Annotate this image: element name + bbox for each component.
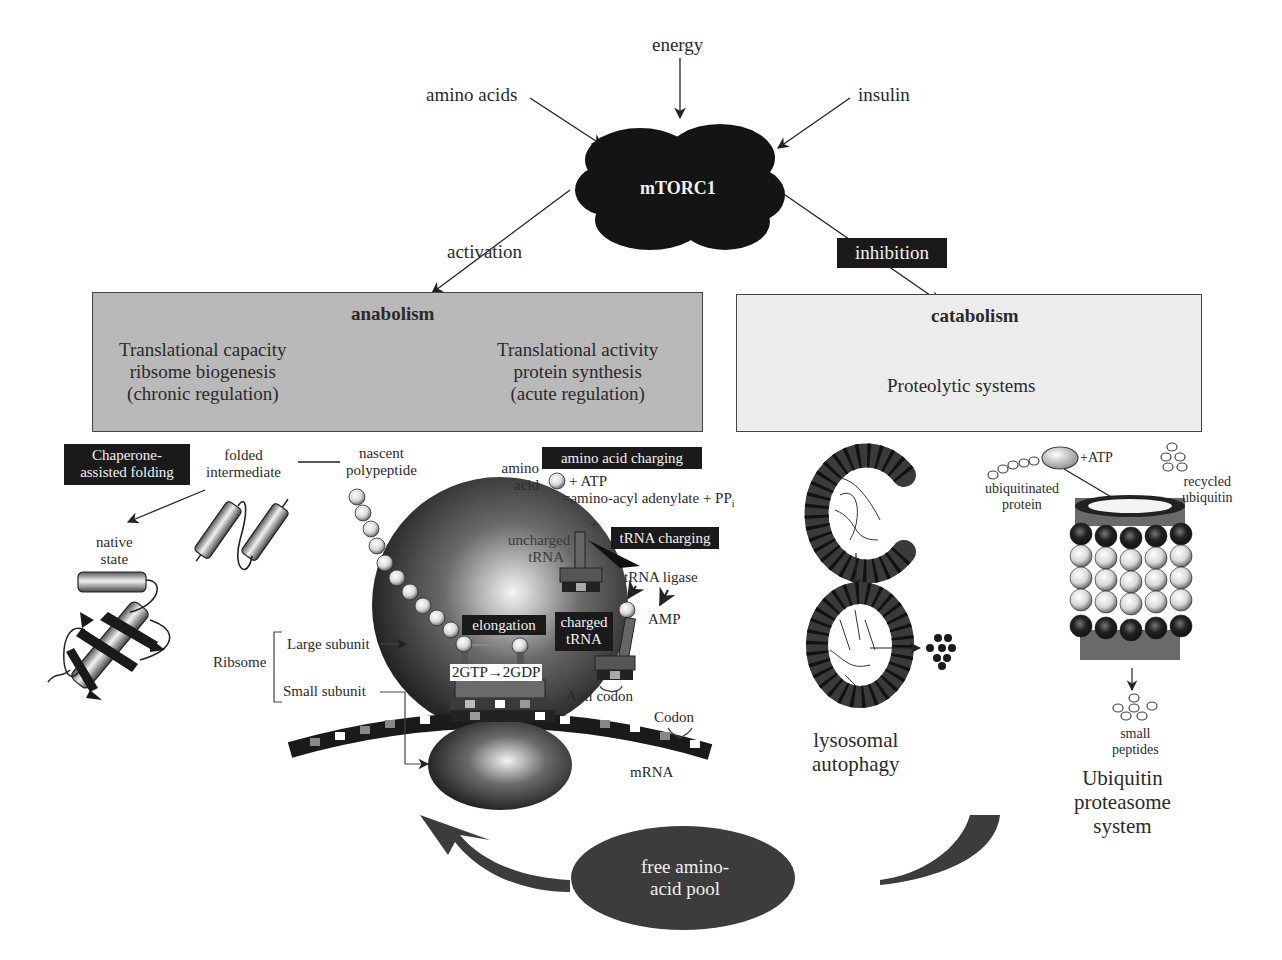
amino-line-2: acid: [496, 477, 539, 494]
anabolism-right-line-1: Translational activity: [497, 339, 658, 361]
adenylate-sub: i: [732, 498, 735, 509]
charged-trna-label: charged tRNA: [555, 612, 613, 651]
recycled-ubiquitin-label: recycled ubiquitin: [1182, 474, 1233, 506]
uncharged-line-2: tRNA: [508, 549, 570, 566]
ribosome-small-subunit: [428, 720, 572, 810]
folded-line-1: folded: [206, 447, 281, 464]
native-state-label: native state: [96, 534, 133, 569]
small-peptides-graphic: [1113, 694, 1157, 720]
native-line-1: native: [96, 534, 133, 551]
native-state-graphic: [48, 572, 170, 700]
recycled-line-2: ubiquitin: [1182, 490, 1233, 506]
plus-sign: +: [590, 516, 598, 533]
inhibition-label: inhibition: [837, 238, 947, 268]
ups-line-3: system: [1074, 814, 1171, 838]
large-subunit-label: Large subunit: [287, 636, 370, 653]
input-energy: energy: [652, 34, 703, 56]
anabolism-left-text: Translational capacity ribsome biogenesi…: [119, 339, 287, 405]
autophagy-line-2: autophagy: [812, 752, 899, 776]
chaperone-label: Chaperone- assisted folding: [64, 444, 190, 485]
proteasome-plus-atp: +ATP: [1080, 450, 1113, 466]
nascent-line-1: nascent: [346, 445, 417, 462]
autophagosome-graphic: [817, 456, 904, 572]
pool-line-1: free amino-: [641, 856, 729, 878]
amino-acid-bead: [549, 473, 565, 489]
charged-line-2: tRNA: [555, 631, 613, 648]
ups-line-2: proteasome: [1074, 790, 1171, 814]
gtp-label: 2GTP→2GDP: [450, 664, 542, 681]
mtorc1-label: mTORC1: [640, 178, 716, 199]
small-peptides-label: small peptides: [1112, 726, 1159, 758]
autophagy-line-1: lysosomal: [812, 728, 899, 752]
amino-acid-charging-label: amino acid charging: [542, 447, 702, 469]
folded-intermediate-label: folded intermediate: [206, 447, 281, 482]
folded-line-2: intermediate: [206, 464, 281, 481]
chaperone-line-2: assisted folding: [64, 464, 190, 481]
codon-label: Codon: [654, 709, 694, 726]
anabolism-left-line-1: Translational capacity: [119, 339, 287, 361]
anabolism-right-line-2: protein synthesis: [497, 361, 658, 383]
ubiquitinated-protein-label: ubiquitinated protein: [985, 481, 1059, 513]
nascent-line-2: polypeptide: [346, 462, 417, 479]
folded-intermediate-graphic: [189, 494, 295, 569]
ubiq-line-2: protein: [985, 497, 1059, 513]
amino-line-1: amino: [496, 460, 539, 477]
recycling-arrow: [880, 815, 1000, 885]
plus-atp-label: + ATP: [569, 473, 607, 490]
input-amino-acids: amino acids: [426, 84, 517, 106]
ups-label: Ubiquitin proteasome system: [1074, 766, 1171, 838]
adenylate-text: =amino-acyl adenylate + PP: [562, 490, 732, 506]
chaperone-line-1: Chaperone-: [64, 447, 190, 464]
anabolism-title: anabolism: [351, 303, 434, 325]
recycled-line-1: recycled: [1182, 474, 1233, 490]
small-subunit-label: Small subunit: [283, 683, 366, 700]
catabolism-title: catabolism: [931, 305, 1019, 327]
recycled-ubiquitin-graphic: [1161, 443, 1187, 471]
anabolism-right-line-3: (acute regulation): [497, 383, 658, 405]
adenylate-label: =amino-acyl adenylate + PPi: [562, 490, 735, 510]
mrna-label: mRNA: [630, 764, 673, 781]
anabolism-box: anabolism Translational capacity ribsome…: [92, 292, 703, 432]
ubiquitinated-protein-graphic: [988, 447, 1078, 479]
lysosome-graphic: [817, 593, 956, 697]
pool-line-2: acid pool: [641, 878, 729, 900]
uncharged-line-1: uncharged: [508, 532, 570, 549]
catabolism-subtitle: Proteolytic systems: [887, 375, 1035, 397]
nascent-polypeptide-label: nascent polypeptide: [346, 445, 417, 480]
anabolism-left-line-3: (chronic regulation): [119, 383, 287, 405]
peptides-line-1: small: [1112, 726, 1159, 742]
elongation-label: elongation: [462, 615, 546, 635]
anti-codon-label: Anti codon: [566, 688, 633, 705]
lysosomal-autophagy-label: lysosomal autophagy: [812, 728, 899, 776]
pool-label: free amino- acid pool: [641, 856, 729, 900]
native-line-2: state: [96, 551, 133, 568]
amino-acid-label: amino acid: [496, 460, 539, 495]
codon-blocks: [450, 680, 555, 722]
activation-label: activation: [447, 241, 522, 263]
charged-line-1: charged: [555, 614, 613, 631]
trna-ligase-label: tRNA ligase: [624, 569, 698, 586]
ribosome-label: Ribsome: [213, 654, 266, 671]
catabolism-box: catabolism Proteolytic systems: [736, 294, 1202, 432]
amp-label: AMP: [648, 611, 681, 628]
anabolism-left-line-2: ribsome biogenesis: [119, 361, 287, 383]
ups-line-1: Ubiquitin: [1074, 766, 1171, 790]
peptides-line-2: peptides: [1112, 742, 1159, 758]
ubiq-line-1: ubiquitinated: [985, 481, 1059, 497]
proteasome-graphic: [1070, 495, 1192, 660]
input-insulin: insulin: [858, 84, 910, 106]
uncharged-trna-label: uncharged tRNA: [508, 532, 570, 567]
trna-charging-label: tRNA charging: [611, 527, 719, 549]
anabolism-right-text: Translational activity protein synthesis…: [497, 339, 658, 405]
